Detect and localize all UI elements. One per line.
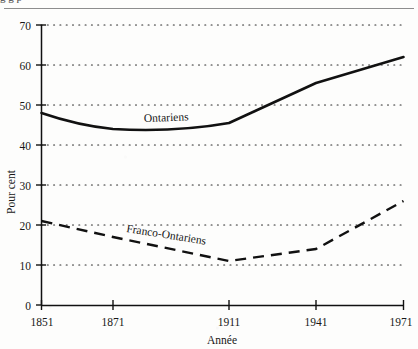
y-tick-labels: 70 60 50 40 30 20 10 0: [20, 20, 32, 312]
x-tick-label-1971: 1971: [390, 316, 413, 328]
x-tick-label-1851: 1851: [31, 316, 54, 328]
y-tick-label-50: 50: [20, 100, 32, 112]
x-axis-title: Année: [207, 334, 237, 346]
y-tick-label-70: 70: [20, 20, 32, 32]
curve-label-ontariens-group: Ontariens: [144, 110, 190, 124]
line-chart: 70 60 50 40 30 20 10 0 1851 1871 1911 19…: [0, 0, 418, 349]
x-tick-label-1871: 1871: [102, 316, 125, 328]
y-tick-label-30: 30: [20, 180, 32, 192]
y-axis-title: Pour cent: [5, 169, 17, 214]
y-tick-label-0: 0: [25, 300, 31, 312]
x-tick-labels: 1851 1871 1911 1941 1971: [31, 316, 413, 328]
gridlines: [41, 25, 404, 265]
series-line-ontariens: [42, 57, 404, 130]
series-line-franco-ontariens: [42, 201, 404, 261]
y-tick-label-40: 40: [20, 140, 32, 152]
x-tick-label-1911: 1911: [218, 316, 241, 328]
x-tick-label-1941: 1941: [305, 316, 328, 328]
figure-canvas: g g p: [0, 0, 418, 349]
y-tick-label-20: 20: [20, 220, 32, 232]
y-tick-label-10: 10: [20, 260, 32, 272]
curve-label-ontariens: Ontariens: [144, 110, 190, 124]
y-tick-label-60: 60: [20, 60, 32, 72]
